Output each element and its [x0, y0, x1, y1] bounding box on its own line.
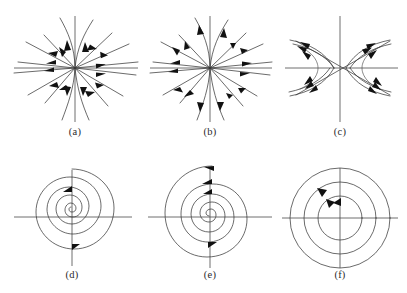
- phase-portrait-figure: (a) (b) (c) (d) (e) (f): [0, 0, 407, 293]
- panel-f-axes: [282, 168, 398, 268]
- panel-f-arrowheads: [317, 188, 341, 208]
- panel-f-plot: [0, 0, 407, 293]
